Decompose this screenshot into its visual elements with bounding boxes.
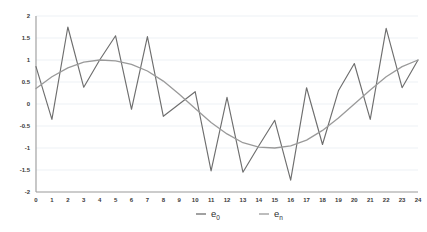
x-axis-tick-label: 8 [162, 197, 166, 203]
x-axis-tick-label: 14 [255, 197, 262, 203]
x-axis-tick-label: 20 [351, 197, 358, 203]
series-line-e0 [36, 27, 418, 180]
x-axis-tick-label: 15 [271, 197, 278, 203]
x-axis-tick-label: 22 [383, 197, 390, 203]
x-axis-tick-label: 17 [303, 197, 310, 203]
x-axis-tick-label: 11 [208, 197, 215, 203]
x-axis-tick-label: 1 [50, 197, 54, 203]
y-axis-tick-label: -2 [25, 189, 31, 195]
y-axis-tick-label: 0.5 [22, 79, 31, 85]
x-axis-tick-label: 7 [146, 197, 150, 203]
x-axis-tick-label: 24 [415, 197, 422, 203]
x-axis-tick-label: 3 [82, 197, 86, 203]
x-axis-tick-label: 23 [399, 197, 406, 203]
chart-container: 21.510.50-0.5-1-1.5-2 012345678910111213… [0, 0, 427, 232]
chart-plot-svg: 21.510.50-0.5-1-1.5-2 012345678910111213… [0, 0, 427, 232]
x-axis-tick-label: 21 [367, 197, 374, 203]
y-axis-tick-label: 1.5 [22, 35, 31, 41]
y-axis-tick-label: 2 [27, 13, 31, 19]
data-series-lines [36, 27, 418, 180]
x-axis-tick-label: 18 [319, 197, 326, 203]
legend-label-en: en [274, 208, 283, 221]
x-axis-tick-label: 12 [224, 197, 231, 203]
x-axis-tick-label: 10 [192, 197, 199, 203]
x-axis-tick-label: 19 [335, 197, 342, 203]
y-axis-tick-label: 0 [27, 101, 31, 107]
x-axis-tick-label: 0 [34, 197, 38, 203]
x-axis-tick-label: 4 [98, 197, 102, 203]
y-axis-tick-labels: 21.510.50-0.5-1-1.5-2 [20, 13, 31, 195]
y-axis-tick-label: 1 [27, 57, 31, 63]
x-axis-tick-label: 5 [114, 197, 118, 203]
gridlines [36, 16, 418, 170]
x-axis-tick-label: 13 [240, 197, 247, 203]
x-axis-tick-label: 9 [178, 197, 182, 203]
x-axis-tick-label: 16 [287, 197, 294, 203]
x-axis-tick-labels: 0123456789101112131415161718192021222324 [34, 197, 422, 203]
y-axis-tick-label: -1 [25, 145, 31, 151]
x-axis-tick-label: 2 [66, 197, 70, 203]
chart-legend: e0en [196, 208, 283, 221]
x-axis-tick-label: 6 [130, 197, 134, 203]
y-axis-tick-label: -1.5 [20, 167, 31, 173]
y-axis-tick-label: -0.5 [20, 123, 31, 129]
legend-label-e0: e0 [211, 208, 220, 221]
